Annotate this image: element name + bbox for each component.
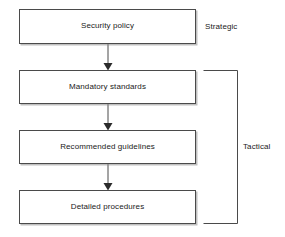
annotation-label-strategic: Strategic <box>205 22 237 31</box>
edge-security-policy-to-mandatory-standards <box>104 44 113 71</box>
node-mandatory-standards[interactable]: Mandatory standards <box>19 70 196 104</box>
diagram-canvas: Security policy Mandatory standards Reco… <box>0 0 285 237</box>
edge-recommended-guidelines-to-detailed-procedures <box>104 164 113 191</box>
node-label: Recommended guidelines <box>60 143 155 152</box>
node-label: Mandatory standards <box>69 83 146 92</box>
node-label: Detailed procedures <box>71 203 145 212</box>
annotation-label-tactical: Tactical <box>243 142 270 151</box>
node-security-policy[interactable]: Security policy <box>19 9 196 44</box>
edge-mandatory-standards-to-recommended-guidelines <box>104 104 113 131</box>
node-detailed-procedures[interactable]: Detailed procedures <box>19 190 196 224</box>
node-recommended-guidelines[interactable]: Recommended guidelines <box>19 130 196 164</box>
node-label: Security policy <box>81 22 134 31</box>
